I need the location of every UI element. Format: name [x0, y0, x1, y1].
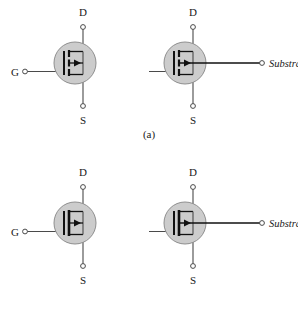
substrate-terminal-node[interactable]: [260, 61, 265, 66]
drain-terminal-node[interactable]: [191, 25, 196, 30]
mosfet-schematic-b-left: D S G: [0, 160, 149, 320]
source-terminal-node[interactable]: [81, 264, 86, 269]
drain-terminal-node[interactable]: [81, 185, 86, 190]
drain-terminal-node[interactable]: [81, 25, 86, 30]
mosfet-symbol-b-left: D S G: [0, 160, 149, 320]
symbol-row-a: D S G: [0, 0, 298, 160]
substrate-terminal-node[interactable]: [260, 221, 265, 226]
mosfet-symbols-figure: D S G: [0, 0, 298, 320]
gate-label: G: [11, 66, 19, 78]
mosfet-symbol-b-right: D S G Substrate: [149, 160, 298, 320]
source-label: S: [190, 274, 196, 286]
drain-label: D: [189, 166, 197, 178]
source-label: S: [190, 114, 196, 126]
gate-terminal-node[interactable]: [23, 229, 28, 234]
gate-label: G: [11, 226, 19, 238]
source-terminal-node[interactable]: [81, 104, 86, 109]
symbol-row-b: D S G: [0, 160, 298, 320]
drain-label: D: [79, 6, 87, 18]
substrate-label: Substrate: [269, 58, 298, 69]
drain-terminal-node[interactable]: [191, 185, 196, 190]
row-caption-a: (a): [0, 128, 298, 140]
source-label: S: [80, 274, 86, 286]
mosfet-schematic-b-right: D S G Substrate: [149, 160, 298, 320]
drain-label: D: [79, 166, 87, 178]
substrate-label: Substrate: [269, 218, 298, 229]
gate-terminal-node[interactable]: [23, 69, 28, 74]
source-label: S: [80, 114, 86, 126]
source-terminal-node[interactable]: [191, 264, 196, 269]
source-terminal-node[interactable]: [191, 104, 196, 109]
drain-label: D: [189, 6, 197, 18]
